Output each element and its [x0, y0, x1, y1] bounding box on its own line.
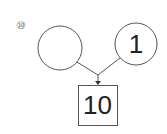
right-circle-value: 1 [115, 23, 157, 65]
result-box-value: 10 [78, 85, 117, 125]
left-circle[interactable] [38, 26, 82, 70]
question-number: ⑩ [14, 18, 28, 32]
left-connector [77, 62, 98, 75]
